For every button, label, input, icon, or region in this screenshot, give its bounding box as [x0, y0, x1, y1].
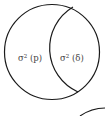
label-p: σ2 (p) [18, 53, 42, 64]
label-delta: σ2 (δ) [60, 53, 84, 64]
left-circle [5, 5, 100, 100]
overlap-arc [50, 7, 78, 92]
venn-diagram: σ2 (p) σ2 (δ) [0, 0, 105, 116]
lower-circle-arc [80, 108, 105, 116]
